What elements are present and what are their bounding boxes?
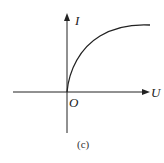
x-axis-arrow-icon: [142, 89, 150, 95]
origin-label: O: [69, 95, 79, 110]
figure-caption: (c): [77, 138, 90, 151]
y-axis-arrow-icon: [64, 13, 70, 21]
y-axis-label: I: [74, 13, 80, 28]
iu-diagram: I U O (c): [0, 0, 164, 163]
iu-curve: [67, 25, 150, 92]
x-axis-label: U: [151, 85, 162, 100]
